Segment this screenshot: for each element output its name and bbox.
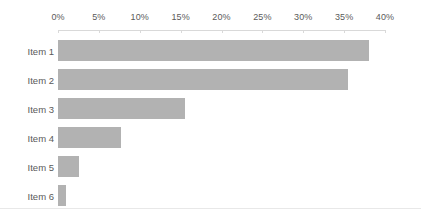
category-label: Item 1: [28, 45, 54, 56]
chart-row: Item 3: [0, 98, 421, 119]
chart-row: Item 5: [0, 156, 421, 177]
category-label: Item 4: [28, 132, 54, 143]
chart-row: Item 1: [0, 40, 421, 61]
x-axis-tick-label: 10%: [131, 12, 149, 22]
bar: [58, 156, 79, 177]
x-axis-tick-mark: [140, 30, 141, 33]
x-axis-tick-mark: [99, 30, 100, 33]
x-axis-tick-mark: [222, 30, 223, 33]
x-axis-tick-labels: 0%5%10%15%20%25%30%35%40%: [0, 12, 421, 26]
category-label: Item 2: [28, 74, 54, 85]
x-axis-tick-label: 20%: [212, 12, 230, 22]
x-axis-tick-label: 0%: [51, 12, 64, 22]
bar: [58, 40, 369, 61]
chart-row: Item 4: [0, 127, 421, 148]
bar: [58, 127, 121, 148]
x-axis-tick-mark: [58, 30, 59, 33]
x-axis-tick-label: 25%: [253, 12, 271, 22]
bar-chart: 0%5%10%15%20%25%30%35%40% Item 1Item 2It…: [0, 0, 421, 222]
chart-row: Item 2: [0, 69, 421, 90]
x-axis-tick-label: 35%: [335, 12, 353, 22]
x-axis-tick-label: 5%: [92, 12, 105, 22]
bottom-divider: [0, 208, 421, 209]
x-axis-tick-mark: [344, 30, 345, 33]
category-label: Item 6: [28, 190, 54, 201]
x-axis-tick-label: 30%: [294, 12, 312, 22]
category-label: Item 5: [28, 161, 54, 172]
category-label: Item 3: [28, 103, 54, 114]
x-axis-tick-mark: [181, 30, 182, 33]
x-axis-tick-mark: [385, 30, 386, 33]
chart-row: Item 6: [0, 185, 421, 206]
x-axis-tick-mark: [262, 30, 263, 33]
bar: [58, 69, 348, 90]
x-axis-tick-label: 15%: [171, 12, 189, 22]
x-axis-tick-label: 40%: [376, 12, 394, 22]
bar: [58, 98, 185, 119]
x-axis-tick-mark: [303, 30, 304, 33]
bar: [58, 185, 66, 206]
